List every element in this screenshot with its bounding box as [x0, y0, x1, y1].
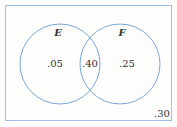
- f-only-value: .25: [119, 58, 135, 69]
- outside-value: .30: [154, 108, 170, 119]
- set-f-label: F: [117, 27, 126, 38]
- venn-diagram: E F .05 .40 .25 .30: [0, 0, 177, 127]
- intersection-value: .40: [82, 58, 98, 69]
- e-only-value: .05: [47, 58, 63, 69]
- set-e-label: E: [53, 27, 62, 38]
